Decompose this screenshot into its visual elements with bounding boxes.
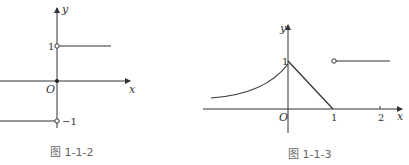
y-axis-label: y (61, 3, 69, 16)
filled-point-origin (55, 79, 59, 83)
tick-label-y1: 1 (282, 56, 288, 67)
tick-label-neg1: −1 (62, 116, 77, 127)
figure-canvas: y x O 1 −1 图 1-1-2 y x O 1 1 2 图 1-1-3 (0, 0, 409, 165)
tick-label-x2: 2 (378, 112, 384, 123)
caption: 图 1-1-2 (50, 146, 93, 159)
y-axis-label: y (279, 22, 287, 35)
figure-1-1-3: y x O 1 1 2 图 1-1-3 (203, 22, 404, 161)
open-point-1-1 (332, 59, 336, 63)
segment-0-to-1 (288, 61, 333, 109)
curve-x-le-0 (211, 64, 288, 98)
tick-label-1: 1 (48, 41, 54, 52)
open-point-0-1 (55, 44, 59, 48)
x-axis-label: x (397, 110, 404, 123)
origin-label: O (46, 83, 55, 96)
tick-label-x1: 1 (331, 112, 337, 123)
open-point-0-neg1 (55, 119, 59, 123)
figure-1-1-2: y x O 1 −1 图 1-1-2 (0, 3, 136, 159)
x-axis-label: x (129, 83, 136, 96)
caption: 图 1-1-3 (288, 148, 331, 161)
origin-label: O (279, 111, 288, 124)
